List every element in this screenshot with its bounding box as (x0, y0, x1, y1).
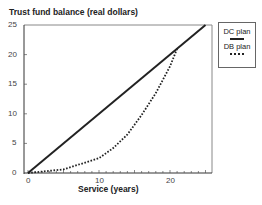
legend-swatch-db (230, 53, 244, 55)
legend-swatch-dc (230, 38, 244, 40)
y-tick-20: 20 (8, 50, 17, 59)
x-tick-0: 0 (26, 176, 30, 185)
legend-label-db: DB plan (219, 42, 255, 51)
y-tick-10: 10 (8, 109, 17, 118)
legend: DC plan DB plan (218, 22, 256, 68)
y-tick-5: 5 (12, 138, 16, 147)
y-tick-0: 0 (12, 168, 16, 177)
legend-label-dc: DC plan (219, 27, 255, 36)
x-axis-label: Service (years) (78, 184, 139, 194)
x-tick-20: 20 (166, 176, 175, 185)
y-tick-25: 25 (8, 20, 17, 29)
dc-plan-line (28, 25, 206, 173)
y-tick-15: 15 (8, 79, 17, 88)
